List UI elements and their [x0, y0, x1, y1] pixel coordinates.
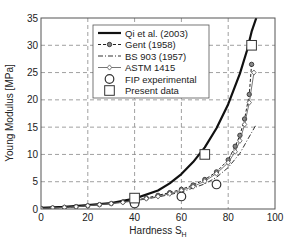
square-marker [130, 193, 140, 203]
legend-label: FIP experimental [125, 74, 197, 85]
x-axis-label: Hardness SH [129, 225, 186, 238]
x-tick-label: 80 [223, 212, 235, 223]
circle-marker [249, 62, 253, 66]
y-tick-label: 15 [27, 122, 39, 133]
y-tick-label: 35 [27, 13, 39, 24]
y-tick-label: 0 [32, 204, 38, 215]
y-tick-label: 10 [27, 149, 39, 160]
legend-label: BS 903 (1957) [125, 51, 186, 62]
x-tick-label: 60 [176, 212, 188, 223]
y-tick-label: 20 [27, 94, 39, 105]
diamond-marker [242, 122, 246, 127]
y-tick-label: 30 [27, 40, 39, 51]
x-tick-label: 100 [267, 212, 284, 223]
square-marker [247, 40, 257, 50]
circle-marker [107, 42, 111, 46]
square-marker [200, 150, 210, 160]
legend-label: Present data [125, 85, 180, 96]
diamond-marker [252, 70, 256, 75]
legend: Qi et al. (2003)Gent (1958)BS 903 (1957)… [93, 25, 209, 98]
x-tick-label: 20 [82, 212, 94, 223]
x-tick-label: 0 [38, 212, 44, 223]
y-tick-label: 25 [27, 67, 39, 78]
y-tick-label: 5 [32, 176, 38, 187]
legend-label: Gent (1958) [125, 39, 176, 50]
y-axis-label: Young Modulus [MPa] [4, 64, 15, 162]
x-tick-label: 40 [129, 212, 141, 223]
circle-marker [177, 192, 186, 201]
circle-marker [105, 75, 114, 84]
legend-label: ASTM 1415 [125, 62, 175, 73]
chart: 02040608010005101520253035 Hardness SH Y… [0, 0, 294, 242]
square-marker [105, 86, 115, 96]
legend-label: Qi et al. (2003) [125, 28, 188, 39]
circle-marker [212, 180, 221, 189]
